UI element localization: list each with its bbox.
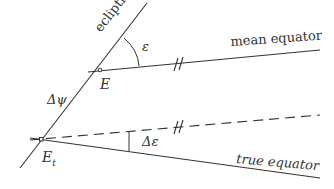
point-Et-main: E [42, 149, 52, 165]
mean-equator-line [88, 50, 320, 72]
point-Et-subscript: t [52, 158, 56, 168]
point-Et-marker [40, 138, 44, 142]
nutation-diagram: ecliptic ε mean equator E Δψ Δε Et true … [0, 0, 334, 189]
epsilon-angle-arc [124, 38, 139, 66]
point-Et-label: Et [42, 150, 56, 168]
epsilon-label: ε [142, 40, 149, 53]
delta-psi-label: Δψ [47, 93, 67, 106]
point-E-label: E [100, 77, 110, 91]
point-E-marker [98, 68, 102, 72]
delta-epsilon-label: Δε [142, 135, 158, 148]
ecliptic-line [20, 3, 147, 168]
dashed-parallel-line [30, 115, 320, 140]
